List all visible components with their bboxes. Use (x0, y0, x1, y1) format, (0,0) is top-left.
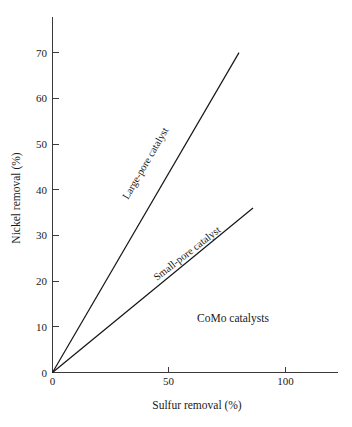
y-axis-title: Nickel removal (%) (10, 152, 23, 243)
annotation-como-catalysts: CoMo catalysts (197, 312, 269, 325)
x-axis-ticks (53, 367, 286, 373)
y-tick-label-0: 0 (42, 367, 48, 379)
y-tick-label-60: 60 (36, 92, 48, 104)
series-line-small-pore (53, 208, 254, 373)
x-tick-label-100: 100 (277, 375, 294, 387)
y-tick-label-70: 70 (36, 47, 48, 59)
x-axis-tick-labels: 0 50 100 (50, 375, 295, 387)
x-axis-title: Sulfur removal (%) (152, 399, 242, 412)
x-tick-label-50: 50 (163, 375, 175, 387)
series-line-large-pore (53, 53, 240, 373)
y-tick-label-50: 50 (36, 138, 48, 150)
y-tick-label-30: 30 (36, 229, 48, 241)
series-label-small-pore: Small-pore catalyst (151, 224, 222, 283)
y-axis-ticks (53, 53, 59, 373)
y-tick-label-40: 40 (36, 184, 48, 196)
y-axis-tick-labels: 0 10 20 30 40 50 60 70 (36, 47, 48, 379)
x-tick-label-0: 0 (50, 375, 56, 387)
chart-plot-area: 0 10 20 30 40 50 60 70 0 50 100 Large-po… (0, 0, 352, 427)
series-label-large-pore: Large-pore catalyst (120, 125, 170, 201)
chart-figure: 0 10 20 30 40 50 60 70 0 50 100 Large-po… (0, 0, 352, 427)
y-tick-label-20: 20 (36, 275, 48, 287)
y-tick-label-10: 10 (36, 321, 48, 333)
